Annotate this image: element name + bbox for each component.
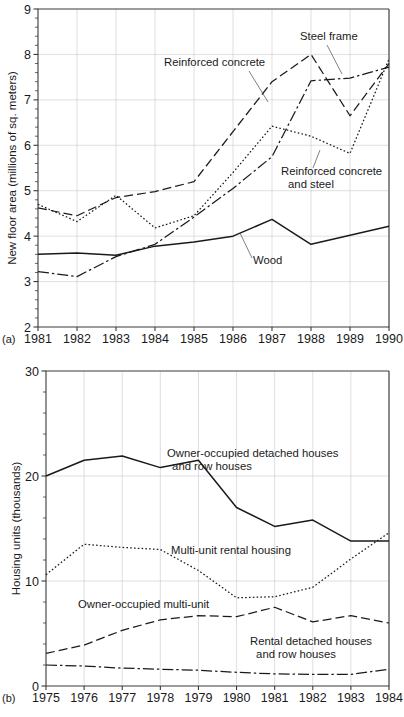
data-series-line: [38, 54, 389, 215]
x-axis-tick-label: 1989: [336, 332, 364, 346]
x-axis-tick-label: 1983: [102, 332, 130, 346]
x-axis-tick-label: 1983: [337, 691, 365, 705]
leader-reinforced-concrete: [249, 71, 268, 102]
series-label-owner-multi-unit: Owner-occupied multi-unit: [78, 598, 210, 610]
x-axis-tick-label: 1984: [375, 691, 403, 705]
y-axis-tick-label: 4: [24, 230, 31, 244]
series-label-rc-and-steel-line2: and steel: [288, 178, 334, 190]
y-axis-tick-label: 10: [25, 575, 39, 589]
series-label-rental-detached-line1: Rental detached houses: [250, 635, 372, 647]
x-axis-tick-label: 1982: [299, 691, 327, 705]
data-series-line: [38, 219, 389, 255]
series-label-owner-detached-line1: Owner-occupied detached houses: [167, 447, 339, 459]
series-label-wood: Wood: [253, 254, 282, 266]
series-label-multi-unit-rental: Multi-unit rental housing: [171, 544, 291, 556]
y-axis-tick-label: 20: [25, 470, 39, 484]
x-axis-tick-label: 1979: [185, 691, 213, 705]
series-label-steel-frame: Steel frame: [300, 30, 358, 42]
y-axis-title: Housing units (thousands): [10, 462, 22, 596]
x-axis-tick-label: 1981: [261, 691, 289, 705]
data-series-line: [46, 533, 389, 598]
leader-wood: [240, 233, 252, 258]
x-axis-tick-label: 1990: [375, 332, 403, 346]
x-axis-tick-label: 1975: [32, 691, 60, 705]
x-axis-tick-label: 1980: [223, 691, 251, 705]
y-axis-tick-label: 9: [24, 3, 31, 17]
chart-a-canvas: 2345678919811982198319841985198619871988…: [0, 0, 404, 358]
y-axis-tick-label: 30: [25, 365, 39, 379]
y-axis-tick-label: 8: [24, 48, 31, 62]
chart-figure-b: 0102030197519761977197819791980198119821…: [0, 358, 404, 717]
x-axis-tick-label: 1984: [141, 332, 169, 346]
x-axis-tick-label: 1978: [146, 691, 174, 705]
y-axis-tick-label: 6: [24, 139, 31, 153]
chart-b-canvas: 0102030197519761977197819791980198119821…: [0, 358, 404, 717]
x-axis-tick-label: 1985: [180, 332, 208, 346]
y-axis-title: New floor area (millions of sq. meters): [6, 71, 18, 265]
data-series-line: [46, 665, 389, 674]
y-axis-tick-label: 7: [24, 93, 31, 107]
series-label-rc-and-steel-line1: Reinforced concrete: [281, 165, 382, 177]
leader-steel-frame: [327, 45, 342, 74]
y-axis-tick-label: 3: [24, 275, 31, 289]
x-axis-tick-label: 1982: [63, 332, 91, 346]
x-axis-tick-label: 1976: [70, 691, 98, 705]
panel-label: (b): [2, 692, 15, 704]
y-axis-tick-label: 5: [24, 184, 31, 198]
panel-label: (a): [2, 333, 15, 345]
x-axis-tick-label: 1981: [24, 332, 52, 346]
x-axis-tick-label: 1977: [108, 691, 136, 705]
chart-figure-a: 2345678919811982198319841985198619871988…: [0, 0, 404, 358]
x-axis-tick-label: 1986: [219, 332, 247, 346]
series-label-reinforced-concrete: Reinforced concrete: [164, 56, 265, 68]
x-axis-tick-label: 1988: [297, 332, 325, 346]
x-axis-tick-label: 1987: [258, 332, 286, 346]
series-label-rental-detached-line2: and row houses: [256, 648, 336, 660]
series-label-owner-detached-line2: and row houses: [172, 460, 252, 472]
